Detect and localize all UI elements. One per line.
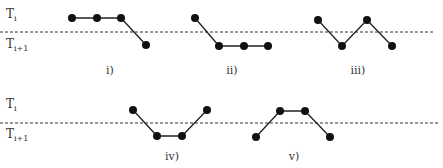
data-point — [153, 132, 161, 140]
data-point — [264, 42, 272, 50]
data-point — [363, 16, 371, 24]
data-point — [338, 42, 346, 50]
data-point — [191, 14, 199, 22]
panel-iv: iv) — [129, 106, 211, 163]
data-point — [203, 106, 211, 114]
data-point — [142, 41, 150, 49]
data-point — [314, 16, 322, 24]
panel-v-path — [256, 111, 330, 137]
panel-i-path — [72, 18, 146, 45]
panel-v: v) — [252, 107, 334, 163]
data-point — [68, 14, 76, 22]
panel-iv-label: iv) — [165, 150, 179, 163]
data-point — [178, 132, 186, 140]
data-point — [252, 133, 260, 141]
row1-bottom-level-label: Ti+1 — [6, 37, 28, 53]
data-point — [276, 107, 284, 115]
data-point — [129, 106, 137, 114]
data-point — [93, 14, 101, 22]
panel-v-label: v) — [288, 150, 300, 163]
panel-iii-label: iii) — [351, 64, 366, 77]
data-point — [117, 14, 125, 22]
row2-top-level-label: Ti — [6, 97, 17, 113]
threshold-transition-diagram: Ti Ti+1 i) ii) iii) Ti Ti+1 — [0, 0, 443, 168]
data-point — [388, 42, 396, 50]
panel-iii: iii) — [314, 16, 396, 77]
data-point — [301, 107, 309, 115]
panel-iii-path — [318, 20, 392, 46]
row1-top-level-label: Ti — [6, 7, 17, 23]
panel-i-label: i) — [106, 64, 114, 77]
row2-bottom-level-label: Ti+1 — [6, 127, 28, 143]
data-point — [326, 133, 334, 141]
data-point — [215, 42, 223, 50]
panel-ii-label: ii) — [226, 64, 237, 77]
panel-ii: ii) — [191, 14, 272, 77]
data-point — [240, 42, 248, 50]
panel-i: i) — [68, 14, 150, 77]
